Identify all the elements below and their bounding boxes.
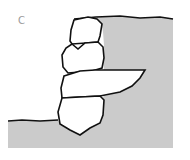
wall-diagram: C [0, 0, 190, 160]
ground-line-left [8, 120, 58, 121]
wall-diagram-svg [0, 0, 190, 160]
figure-label: C [18, 15, 25, 26]
second-stone [62, 42, 104, 73]
top-stone [70, 17, 102, 44]
